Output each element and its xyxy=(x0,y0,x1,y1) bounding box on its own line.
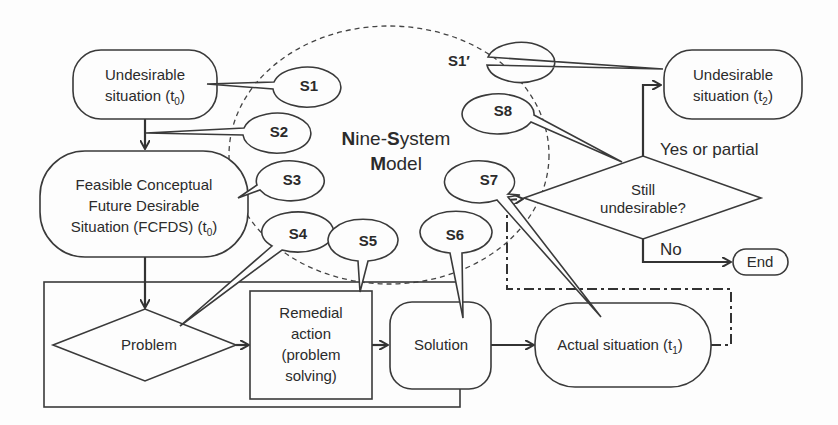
bubble-s3-label: S3 xyxy=(283,171,301,188)
solution-label: Solution xyxy=(414,336,468,353)
undesirable-t0-line1: Undesirable xyxy=(105,66,185,83)
model-title-line1: Nine-System xyxy=(342,128,451,149)
bubble-s3: S3 xyxy=(238,161,324,201)
bubble-s8: S8 xyxy=(462,94,622,162)
end-label: End xyxy=(747,253,774,270)
bubble-s1-prime-label: S1′ xyxy=(448,52,470,69)
undesirable-t2-line1: Undesirable xyxy=(693,66,773,83)
bubble-s8-label: S8 xyxy=(494,102,512,119)
bubble-s7-label: S7 xyxy=(480,171,498,188)
nine-system-model-diagram: S1 S2 S3 S4 S5 S6 S7 S8 S1′ Nine-System … xyxy=(0,0,838,425)
fcfds-line2: Future Desirable xyxy=(89,197,200,214)
model-title-line2: Model xyxy=(370,153,422,174)
edge-label-yes: Yes or partial xyxy=(660,140,759,159)
bubble-s2-label: S2 xyxy=(270,123,288,140)
problem-label: Problem xyxy=(121,336,177,353)
bubble-s4-label: S4 xyxy=(289,225,308,242)
arrow-no-to-end xyxy=(643,239,730,262)
bubble-s1: S1 xyxy=(207,67,341,107)
bubble-s6-label: S6 xyxy=(446,226,464,243)
remedial-line3: (problem xyxy=(281,346,340,363)
still-undesirable-line1: Still xyxy=(631,181,655,198)
fcfds-line1: Feasible Conceptual xyxy=(76,176,213,193)
node-undesirable-t0 xyxy=(73,50,217,119)
remedial-line2: action xyxy=(291,325,331,342)
bubble-s5-label: S5 xyxy=(359,232,377,249)
bubble-s1-label: S1 xyxy=(300,77,318,94)
still-undesirable-line2: undesirable? xyxy=(600,199,686,216)
edge-label-no: No xyxy=(660,240,682,259)
arrow-yes-to-t2 xyxy=(643,85,660,156)
node-undesirable-t2 xyxy=(664,50,802,119)
remedial-line4: solving) xyxy=(285,367,337,384)
bubble-s5: S5 xyxy=(328,219,398,292)
remedial-line1: Remedial xyxy=(279,304,342,321)
